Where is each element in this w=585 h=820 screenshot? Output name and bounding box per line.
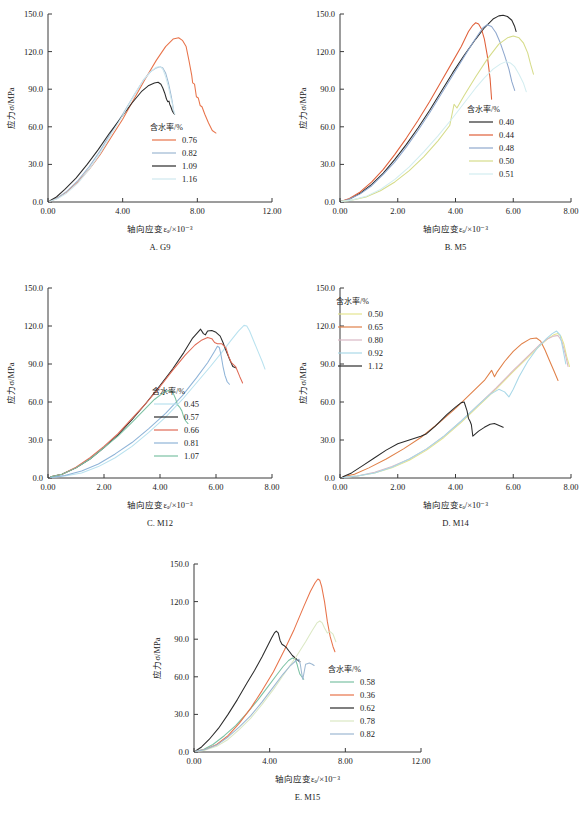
legend-label-0-48: 0.48 [499, 143, 514, 153]
legend-label-0-40: 0.40 [499, 117, 514, 127]
x-axis-title: 轴向应变εₐ/×10⁻³ [127, 224, 193, 234]
y-tick-label: 150.0 [24, 9, 43, 19]
y-tick-label: 30.0 [28, 159, 43, 169]
y-tick-label: 150.0 [170, 559, 189, 569]
x-tick-label: 12.00 [411, 756, 430, 766]
x-tick-label: 4.00 [262, 756, 277, 766]
x-tick-label: 2.00 [97, 482, 112, 492]
y-tick-label: 120.0 [316, 321, 335, 331]
legend-title: 含水率/% [150, 122, 183, 132]
curve-0-81 [51, 346, 230, 477]
x-tick-label: 0.00 [187, 756, 202, 766]
y-tick-label: 90.0 [28, 84, 43, 94]
curve-1-16 [50, 67, 175, 202]
legend-label-0-50: 0.50 [368, 309, 383, 319]
y-tick-label: 150.0 [316, 9, 335, 19]
legend-label-1-16: 1.16 [182, 174, 197, 184]
subplot-caption: B. M5 [445, 242, 467, 252]
x-tick-label: 6.00 [506, 482, 521, 492]
x-tick-label: 12.00 [262, 206, 281, 216]
legend-label-0-76: 0.76 [182, 135, 197, 145]
axis-lines [48, 14, 272, 202]
chart-panel-e: 0.030.060.090.0120.0150.00.004.008.0012.… [146, 550, 439, 818]
y-tick-label: 30.0 [28, 435, 43, 445]
legend-title: 含水率/% [467, 104, 500, 114]
x-axis-title: 轴向应变εₐ/×10⁻³ [423, 500, 489, 510]
legend-label-0-36: 0.36 [360, 690, 375, 700]
x-tick-label: 8.00 [564, 482, 579, 492]
legend-label-0-65: 0.65 [368, 322, 383, 332]
axis-lines [48, 288, 272, 478]
x-tick-label: 4.00 [153, 482, 168, 492]
y-tick-label: 150.0 [316, 283, 335, 293]
legend-label-0-50: 0.50 [499, 156, 514, 166]
x-axis-title: 轴向应变εₐ/×10⁻³ [275, 774, 341, 784]
x-axis-title: 轴向应变εₐ/×10⁻³ [127, 500, 193, 510]
curve-1-09 [50, 82, 175, 200]
y-tick-label: 30.0 [174, 709, 189, 719]
curve-0-45 [51, 325, 265, 477]
x-tick-label: 8.00 [265, 482, 280, 492]
legend-label-1-09: 1.09 [182, 161, 197, 171]
y-axis-title: 应力σ/MPa [298, 87, 308, 128]
x-tick-label: 2.00 [390, 206, 405, 216]
y-axis-title: 应力σ/MPa [152, 637, 162, 678]
x-tick-label: 4.00 [115, 206, 130, 216]
legend-label-0-44: 0.44 [499, 130, 515, 140]
y-tick-label: 120.0 [24, 47, 43, 57]
chart-panel-b: 0.030.060.090.0120.0150.00.002.004.006.0… [292, 0, 585, 268]
x-tick-label: 4.00 [448, 206, 463, 216]
y-tick-label: 90.0 [174, 634, 189, 644]
legend-label-0-92: 0.92 [368, 348, 383, 358]
curve-1-12 [343, 402, 503, 477]
y-tick-label: 60.0 [320, 397, 335, 407]
x-tick-label: 6.00 [209, 482, 224, 492]
x-tick-label: 0.00 [333, 206, 348, 216]
x-tick-label: 0.00 [333, 482, 348, 492]
x-tick-label: 8.00 [564, 206, 579, 216]
legend-label-0-82: 0.82 [360, 729, 375, 739]
x-axis-title: 轴向应变εₐ/×10⁻³ [423, 224, 489, 234]
legend: 含水率/%0.400.440.480.500.51 [467, 104, 515, 179]
y-tick-label: 60.0 [320, 122, 335, 132]
legend-title: 含水率/% [336, 296, 369, 306]
y-tick-label: 30.0 [320, 159, 335, 169]
y-tick-label: 120.0 [170, 597, 189, 607]
y-tick-label: 60.0 [174, 672, 189, 682]
legend: 含水率/%0.580.360.620.780.82 [328, 664, 375, 739]
y-tick-label: 150.0 [24, 283, 43, 293]
y-axis-title: 应力σ/MPa [298, 362, 308, 403]
y-tick-label: 60.0 [28, 397, 43, 407]
curve-0-58 [196, 658, 304, 751]
x-tick-label: 8.00 [190, 206, 205, 216]
x-tick-label: 4.00 [448, 482, 463, 492]
legend-label-0-58: 0.58 [360, 677, 375, 687]
legend-label-1-07: 1.07 [184, 451, 199, 461]
chart-panel-d: 0.030.060.090.0120.0150.00.002.004.006.0… [292, 272, 585, 544]
legend-label-0-45: 0.45 [184, 399, 199, 409]
y-tick-label: 60.0 [28, 122, 43, 132]
subplot-caption: E. M15 [295, 792, 321, 802]
legend: 含水率/%0.500.650.800.921.12 [336, 296, 383, 371]
y-tick-label: 120.0 [316, 47, 335, 57]
y-axis-title: 应力σ/MPa [6, 87, 16, 128]
curve-0-82 [196, 659, 314, 751]
chart-panel-c: 0.030.060.090.0120.0150.00.002.004.006.0… [0, 272, 290, 544]
legend-title: 含水率/% [328, 664, 361, 674]
subplot-caption: A. G9 [150, 242, 171, 252]
x-tick-label: 2.00 [390, 482, 405, 492]
legend-label-0-57: 0.57 [184, 412, 199, 422]
legend-label-0-80: 0.80 [368, 335, 383, 345]
y-tick-label: 30.0 [320, 435, 335, 445]
x-tick-label: 6.00 [506, 206, 521, 216]
legend-label-0-82: 0.82 [182, 148, 197, 158]
legend: 含水率/%0.760.821.091.16 [150, 122, 197, 184]
y-axis-title: 应力σ/MPa [6, 362, 16, 403]
axis-lines [194, 564, 421, 752]
x-tick-label: 0.00 [41, 482, 56, 492]
y-tick-label: 120.0 [24, 321, 43, 331]
y-tick-label: 90.0 [320, 359, 335, 369]
y-tick-label: 90.0 [28, 359, 43, 369]
subplot-caption: C. M12 [147, 518, 173, 528]
x-tick-label: 8.00 [338, 756, 353, 766]
